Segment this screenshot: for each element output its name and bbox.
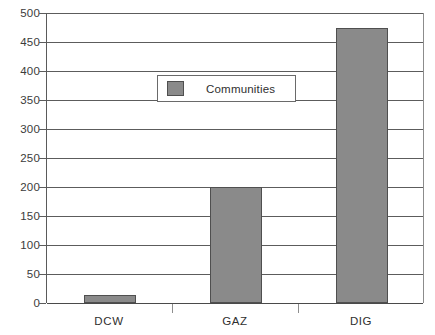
y-tick-mark (39, 42, 46, 43)
y-tick-mark (39, 158, 46, 159)
y-tick-label: 250 (2, 152, 40, 164)
y-tick-mark (39, 216, 46, 217)
y-tick-label: 300 (2, 123, 40, 135)
y-tick-mark (39, 303, 46, 304)
bar-gaz (210, 187, 261, 303)
plot-area: Communities (46, 13, 424, 303)
y-axis: 050100150200250300350400450500 (0, 0, 40, 335)
bar-chart: 050100150200250300350400450500 Communiti… (0, 0, 435, 335)
x-tick-label-dig: DIG (350, 315, 372, 327)
legend: Communities (157, 75, 296, 102)
y-tick-mark (39, 13, 46, 14)
y-tick-label: 200 (2, 181, 40, 193)
y-tick-mark (39, 71, 46, 72)
y-tick-mark (39, 245, 46, 246)
x-tick-label-dcw: DCW (94, 315, 123, 327)
gridline (47, 303, 423, 304)
y-tick-label: 450 (2, 36, 40, 48)
legend-swatch-communities (167, 81, 184, 96)
category-divider (298, 304, 299, 313)
y-tick-label: 0 (2, 297, 40, 309)
y-tick-mark (39, 129, 46, 130)
bar-dig (336, 28, 387, 304)
gridline (47, 13, 423, 14)
y-tick-label: 50 (2, 268, 40, 280)
legend-label-communities: Communities (206, 83, 275, 95)
y-tick-mark (39, 274, 46, 275)
category-divider (172, 304, 173, 313)
x-tick-label-gaz: GAZ (222, 315, 247, 327)
y-tick-mark (39, 100, 46, 101)
y-tick-label: 350 (2, 94, 40, 106)
bar-dcw (84, 295, 135, 303)
y-tick-label: 500 (2, 7, 40, 19)
y-tick-mark (39, 187, 46, 188)
y-tick-label: 100 (2, 239, 40, 251)
y-tick-label: 150 (2, 210, 40, 222)
y-tick-label: 400 (2, 65, 40, 77)
